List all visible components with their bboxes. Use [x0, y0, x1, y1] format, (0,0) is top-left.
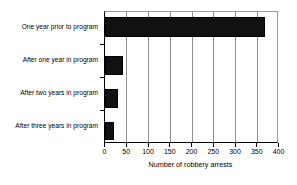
category-label-1: After one year in program — [0, 56, 98, 64]
bar-after-one-year[interactable] — [105, 56, 123, 75]
bar-after-two-years[interactable] — [105, 89, 119, 108]
bar-after-three-years[interactable] — [105, 122, 114, 140]
category-label-2: After two years in program — [0, 89, 98, 97]
category-label-3: After three years in program — [0, 122, 98, 130]
category-axis-labels: One year prior to program After one year… — [0, 11, 100, 143]
plot-area — [104, 11, 279, 143]
category-label-0: One year prior to program — [0, 23, 98, 31]
bar-chart-figure: One year prior to program After one year… — [0, 0, 297, 185]
bars-layer — [105, 12, 278, 142]
x-tick-label-400: 400 — [266, 147, 292, 156]
x-axis-title: Number of robbery arrests — [103, 160, 278, 170]
bar-one-year-prior[interactable] — [105, 17, 265, 37]
